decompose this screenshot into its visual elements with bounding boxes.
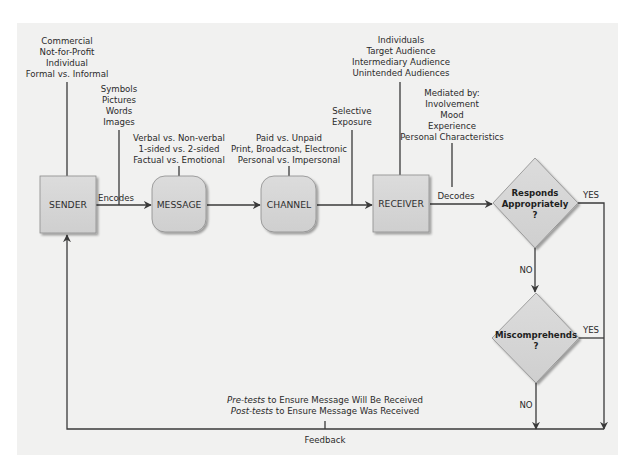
node-sender[interactable]: SENDER bbox=[40, 176, 96, 233]
svg-text:1-sided vs. 2-sided: 1-sided vs. 2-sided bbox=[138, 144, 219, 154]
svg-text:Symbols: Symbols bbox=[101, 84, 138, 94]
svg-text:Personal Characteristics: Personal Characteristics bbox=[400, 132, 504, 142]
svg-text:Not-for-Profit: Not-for-Profit bbox=[40, 47, 96, 57]
svg-text:Pre-tests to Ensure Message Wi: Pre-tests to Ensure Message Will Be Rece… bbox=[227, 395, 423, 405]
message-label: MESSAGE bbox=[157, 199, 202, 210]
svg-text:Personal vs. Impersonal: Personal vs. Impersonal bbox=[238, 155, 340, 165]
svg-text:Unintended Audiences: Unintended Audiences bbox=[353, 68, 451, 78]
edge-label-no-2: NO bbox=[519, 400, 532, 410]
svg-text:Verbal vs. Non-verbal: Verbal vs. Non-verbal bbox=[133, 133, 225, 143]
svg-text:Factual vs. Emotional: Factual vs. Emotional bbox=[133, 155, 225, 165]
svg-text:Mood: Mood bbox=[440, 110, 463, 120]
annotation-selective-exposure: Selective Exposure bbox=[332, 106, 372, 127]
channel-label: CHANNEL bbox=[267, 199, 312, 210]
edge-label-yes-1: YES bbox=[582, 190, 599, 200]
communication-process-diagram: SENDER MESSAGE CHANNEL RECEIVER Responds… bbox=[0, 0, 635, 465]
annotation-receiver-types: Individuals Target Audience Intermediary… bbox=[352, 35, 450, 78]
edge-label-decodes: Decodes bbox=[437, 191, 475, 201]
svg-text:Appropriately: Appropriately bbox=[502, 199, 569, 209]
node-channel[interactable]: CHANNEL bbox=[261, 176, 316, 232]
edge-label-yes-2: YES bbox=[582, 325, 599, 335]
svg-text:Responds: Responds bbox=[511, 188, 558, 198]
svg-text:Selective: Selective bbox=[332, 106, 371, 116]
annotation-sender-types: Commercial Not-for-Profit Individual For… bbox=[26, 36, 109, 79]
svg-text:Paid vs. Unpaid: Paid vs. Unpaid bbox=[256, 133, 322, 143]
svg-text:Mediated by:: Mediated by: bbox=[424, 88, 479, 98]
svg-text:Experience: Experience bbox=[428, 121, 476, 131]
sender-label: SENDER bbox=[49, 199, 87, 210]
annotation-message-types: Verbal vs. Non-verbal 1-sided vs. 2-side… bbox=[133, 133, 225, 165]
receiver-label: RECEIVER bbox=[378, 198, 424, 209]
edge-label-encodes: Encodes bbox=[98, 193, 135, 203]
annotation-mediators: Mediated by: Involvement Mood Experience… bbox=[400, 88, 504, 142]
svg-text:Post-tests to Ensure Message W: Post-tests to Ensure Message Was Receive… bbox=[231, 406, 420, 416]
svg-text:Formal vs. Informal: Formal vs. Informal bbox=[26, 69, 109, 79]
decision-responds-appropriately[interactable]: Responds Appropriately ? bbox=[493, 158, 578, 248]
svg-text:?: ? bbox=[534, 341, 539, 351]
svg-text:Exposure: Exposure bbox=[332, 117, 372, 127]
svg-text:Print, Broadcast, Electronic: Print, Broadcast, Electronic bbox=[231, 144, 347, 154]
svg-text:Pictures: Pictures bbox=[102, 95, 137, 105]
svg-text:Words: Words bbox=[106, 106, 133, 116]
svg-text:Individual: Individual bbox=[46, 58, 88, 68]
svg-text:Commercial: Commercial bbox=[41, 36, 92, 46]
svg-text:Miscomprehends: Miscomprehends bbox=[495, 330, 577, 340]
annotation-encoding-forms: Symbols Pictures Words Images bbox=[101, 84, 138, 127]
annotation-channel-types: Paid vs. Unpaid Print, Broadcast, Electr… bbox=[231, 133, 347, 165]
svg-text:Involvement: Involvement bbox=[425, 99, 479, 109]
svg-text:?: ? bbox=[533, 210, 538, 220]
decision-miscomprehends[interactable]: Miscomprehends ? bbox=[492, 293, 579, 383]
edge-label-no-1: NO bbox=[519, 265, 532, 275]
svg-text:Target Audience: Target Audience bbox=[365, 46, 435, 56]
node-message[interactable]: MESSAGE bbox=[152, 176, 206, 232]
edge-label-feedback: Feedback bbox=[305, 435, 346, 445]
svg-text:Images: Images bbox=[103, 117, 135, 127]
svg-text:Intermediary Audience: Intermediary Audience bbox=[352, 57, 450, 67]
svg-text:Individuals: Individuals bbox=[378, 35, 425, 45]
annotation-tests: Pre-tests to Ensure Message Will Be Rece… bbox=[227, 395, 423, 416]
node-receiver[interactable]: RECEIVER bbox=[373, 175, 429, 232]
